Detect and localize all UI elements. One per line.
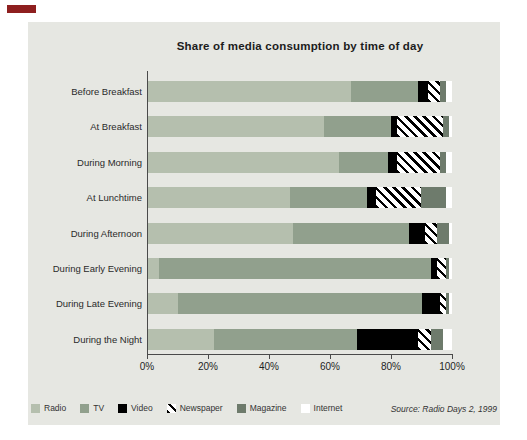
bar-segment-newspaper	[428, 81, 440, 102]
legend: RadioTVVideoNewspaperMagazineInternet	[31, 403, 342, 413]
bar-segment-radio	[147, 81, 351, 102]
bar-segment-newspaper	[397, 116, 443, 137]
corner-marker	[7, 5, 36, 13]
stacked-bar	[147, 152, 452, 173]
stacked-bar	[147, 223, 452, 244]
legend-swatch-radio	[31, 404, 40, 413]
bar-segment-video	[367, 187, 376, 208]
bar-segment-newspaper	[418, 329, 430, 350]
plot-area: Before BreakfastAt BreakfastDuring Morni…	[0, 81, 527, 357]
x-tick-mark	[208, 354, 209, 359]
x-tick-label: 40%	[247, 361, 291, 372]
x-tick-mark	[147, 354, 148, 359]
legend-swatch-tv	[80, 404, 89, 413]
bar-segment-magazine	[437, 223, 449, 244]
bar-segment-internet	[443, 329, 452, 350]
legend-item-internet: Internet	[301, 403, 343, 413]
x-tick-label: 60%	[308, 361, 352, 372]
legend-label: Magazine	[250, 403, 287, 413]
bar-segment-tv	[178, 293, 422, 314]
x-tick-mark	[391, 354, 392, 359]
bar-segment-tv	[293, 223, 409, 244]
x-axis-line	[147, 354, 453, 355]
legend-swatch-newspaper	[167, 404, 176, 413]
bar-segment-radio	[147, 152, 339, 173]
x-tick-label: 80%	[369, 361, 413, 372]
legend-label: Newspaper	[180, 403, 223, 413]
legend-item-radio: Radio	[31, 403, 66, 413]
bar-segment-tv	[214, 329, 357, 350]
bar-segment-video	[388, 152, 397, 173]
category-label: At Lunchtime	[18, 187, 142, 208]
stacked-bar	[147, 258, 452, 279]
source-note: Source: Radio Days 2, 1999	[391, 404, 497, 414]
bar-segment-tv	[351, 81, 418, 102]
bar-segment-internet	[446, 152, 452, 173]
stacked-bar	[147, 329, 452, 350]
legend-item-video: Video	[118, 403, 153, 413]
bar-segment-video	[422, 293, 440, 314]
x-tick-mark	[452, 354, 453, 359]
x-tick-label: 20%	[186, 361, 230, 372]
bar-segment-tv	[339, 152, 388, 173]
bar-segment-tv	[159, 258, 430, 279]
bar-segment-video	[409, 223, 424, 244]
bar-segment-internet	[446, 81, 452, 102]
legend-label: Video	[131, 403, 153, 413]
category-label: During Afternoon	[18, 223, 142, 244]
stacked-bar	[147, 81, 452, 102]
bar-segment-magazine	[421, 187, 445, 208]
x-tick-mark	[330, 354, 331, 359]
stacked-bar	[147, 116, 452, 137]
x-tick-mark	[269, 354, 270, 359]
legend-swatch-magazine	[237, 404, 246, 413]
bar-segment-newspaper	[437, 258, 446, 279]
bar-row: During Morning	[0, 152, 527, 173]
stacked-bar	[147, 293, 452, 314]
x-tick-label: 0%	[125, 361, 169, 372]
bar-row: Before Breakfast	[0, 81, 527, 102]
chart-page: Share of media consumption by time of da…	[0, 0, 527, 440]
legend-item-tv: TV	[80, 403, 104, 413]
bar-segment-radio	[147, 258, 159, 279]
category-label: Before Breakfast	[18, 81, 142, 102]
bar-segment-radio	[147, 223, 293, 244]
bar-row: During the Night	[0, 329, 527, 350]
bar-segment-newspaper	[376, 187, 422, 208]
category-label: At Breakfast	[18, 116, 142, 137]
bar-segment-tv	[290, 187, 366, 208]
legend-label: Radio	[44, 403, 66, 413]
bar-segment-internet	[449, 116, 452, 137]
legend-label: Internet	[314, 403, 343, 413]
bar-row: During Early Evening	[0, 258, 527, 279]
legend-swatch-internet	[301, 404, 310, 413]
bar-segment-video	[418, 81, 427, 102]
bar-row: During Late Evening	[0, 293, 527, 314]
bar-segment-internet	[449, 258, 452, 279]
bar-segment-radio	[147, 187, 290, 208]
x-tick-label: 100%	[430, 361, 474, 372]
bar-segment-newspaper	[425, 223, 437, 244]
bar-segment-radio	[147, 329, 214, 350]
bar-segment-video	[357, 329, 418, 350]
category-label: During Early Evening	[18, 258, 142, 279]
legend-item-newspaper: Newspaper	[167, 403, 223, 413]
bar-segment-tv	[324, 116, 391, 137]
bar-row: At Breakfast	[0, 116, 527, 137]
legend-label: TV	[93, 403, 104, 413]
stacked-bar	[147, 187, 452, 208]
bar-segment-radio	[147, 116, 324, 137]
category-label: During the Night	[18, 329, 142, 350]
bar-segment-internet	[449, 293, 452, 314]
bar-segment-magazine	[431, 329, 443, 350]
bar-segment-internet	[446, 187, 452, 208]
category-label: During Morning	[18, 152, 142, 173]
legend-swatch-video	[118, 404, 127, 413]
bar-segment-radio	[147, 293, 178, 314]
bar-row: At Lunchtime	[0, 187, 527, 208]
chart-title: Share of media consumption by time of da…	[147, 40, 453, 52]
legend-item-magazine: Magazine	[237, 403, 287, 413]
bar-segment-newspaper	[397, 152, 440, 173]
bar-row: During Afternoon	[0, 223, 527, 244]
y-axis-line	[147, 71, 148, 355]
